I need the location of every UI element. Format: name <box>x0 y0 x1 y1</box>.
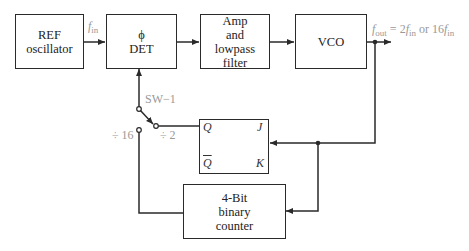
amp-line4: filter <box>223 56 247 70</box>
j-pin: J <box>257 120 262 135</box>
phase-detector-block: ϕ DET <box>106 14 177 69</box>
qbar-pin: Q <box>203 156 212 171</box>
k-pin: K <box>256 156 264 171</box>
fin-label: fin <box>88 19 98 35</box>
det-label: DET <box>129 42 153 56</box>
amp-filter-block: Amp and lowpass filter <box>200 14 270 69</box>
div2-contact <box>154 124 159 129</box>
amp-line2: and <box>226 28 244 42</box>
ref-line1: REF <box>38 28 61 42</box>
q-pin: Q <box>203 120 212 135</box>
switch-pivot <box>137 107 142 112</box>
ref-oscillator-block: REF oscillator <box>15 14 84 69</box>
switch-label: SW−1 <box>145 92 176 107</box>
counter-line2: binary <box>219 205 251 219</box>
vco-label: VCO <box>318 35 344 49</box>
counter-line1: 4-Bit <box>222 191 248 205</box>
div16-label: ÷ 16 <box>112 128 134 143</box>
output-junction-dot <box>373 40 378 45</box>
ref-line2: oscillator <box>26 42 73 56</box>
fout-label: fout = 2fin or 16fin <box>372 22 454 38</box>
binary-counter-block: 4-Bit binary counter <box>183 184 286 239</box>
counter-line3: counter <box>216 219 253 233</box>
amp-line1: Amp <box>223 14 248 28</box>
counter-to-div16 <box>139 132 183 213</box>
feedback-to-counter <box>286 143 318 211</box>
div16-contact <box>137 128 142 133</box>
amp-line3: lowpass <box>215 42 255 56</box>
div2-label: ÷ 2 <box>160 128 176 143</box>
feedback-junction-dot <box>316 141 321 146</box>
phi-symbol: ϕ <box>138 28 145 42</box>
switch-blade <box>140 110 153 124</box>
vco-block: VCO <box>295 14 367 69</box>
